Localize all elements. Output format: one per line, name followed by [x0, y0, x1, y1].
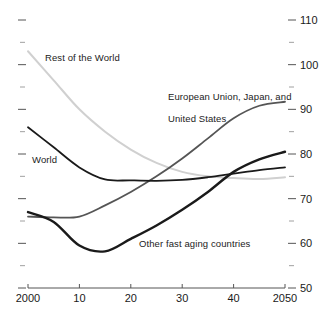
axis-ticks-left — [18, 20, 26, 288]
svg-text:2050: 2050 — [273, 292, 297, 304]
svg-text:50: 50 — [300, 282, 312, 294]
svg-text:70: 70 — [300, 193, 312, 205]
y-axis-tick-labels: 1101009080706050 — [300, 14, 318, 294]
svg-text:40: 40 — [227, 292, 239, 304]
axis-ticks-right — [288, 20, 296, 288]
svg-text:20: 20 — [125, 292, 137, 304]
x-axis-tick-labels: 2000102030402050 — [16, 292, 297, 304]
series-label-european-union-japan-united-states: European Union, Japan, and United States — [157, 80, 292, 135]
svg-text:100: 100 — [300, 59, 318, 71]
svg-text:10: 10 — [73, 292, 85, 304]
x-axis-line-and-ticks — [28, 284, 285, 288]
series-label-rest-of-the-world: Rest of the World — [45, 52, 120, 63]
svg-text:110: 110 — [300, 14, 318, 26]
series-line-other-fast-aging-countries — [28, 152, 285, 252]
svg-text:80: 80 — [300, 148, 312, 160]
series-line-world — [28, 127, 285, 181]
series-label-other-fast-aging-countries: Other fast aging countries — [139, 238, 250, 249]
chart-container: 2000102030402050 1101009080706050 Rest o… — [0, 0, 330, 329]
svg-text:90: 90 — [300, 103, 312, 115]
series-label-eu-line-2: United States — [168, 113, 226, 124]
svg-text:30: 30 — [176, 292, 188, 304]
series-label-world: World — [32, 154, 57, 165]
svg-text:60: 60 — [300, 237, 312, 249]
svg-text:2000: 2000 — [16, 292, 40, 304]
series-label-eu-line-1: European Union, Japan, and — [168, 91, 292, 102]
